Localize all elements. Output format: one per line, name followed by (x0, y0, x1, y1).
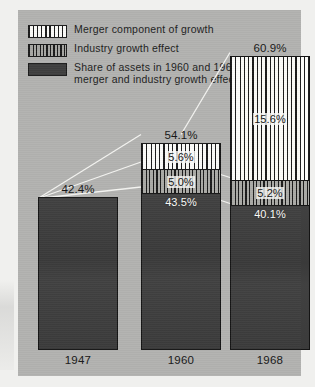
chart-panel: Merger component of growth Industry grow… (18, 10, 301, 376)
segment-industry-1968: 5.2% (231, 181, 309, 206)
segment-value-label: 5.0% (167, 176, 195, 188)
bar-total-label: 60.9% (253, 42, 286, 54)
segment-value-label: 5.6% (167, 151, 195, 163)
segment-value-label: 15.6% (253, 113, 287, 125)
figure-root: Merger component of growth Industry grow… (0, 0, 315, 387)
segment-merger-1968: 15.6% (231, 57, 309, 181)
segment-merger-1960: 5.6% (142, 144, 220, 170)
plot-area: 42.4% 1947 54.1% 5.6% 5.0% 43.5% (18, 10, 301, 376)
segment-value-label: 43.5% (164, 196, 198, 208)
axis-label-1947: 1947 (65, 354, 92, 366)
bar-total-label: 54.1% (164, 129, 197, 141)
bar-1960[interactable]: 54.1% 5.6% 5.0% 43.5% 1960 (141, 143, 221, 350)
axis-label-1968: 1968 (257, 354, 284, 366)
bar-group-1947: 42.4% 1947 (38, 197, 118, 350)
bar-group-1968: 60.9% 15.6% 5.2% 40.1% 1968 (230, 56, 310, 350)
bar-group-1960: 54.1% 5.6% 5.0% 43.5% 1960 (141, 143, 221, 350)
segment-value-label: 5.2% (256, 187, 284, 199)
segment-base-1947 (39, 198, 117, 349)
axis-label-1960: 1960 (168, 354, 195, 366)
connector-line (181, 53, 230, 135)
segment-base-1968: 40.1% (231, 206, 309, 349)
segment-industry-1960: 5.0% (142, 170, 220, 194)
scan-edge-smudge (0, 280, 14, 370)
bar-1947[interactable]: 42.4% 1947 (38, 197, 118, 350)
bar-1968[interactable]: 60.9% 15.6% 5.2% 40.1% 1968 (230, 56, 310, 350)
segment-base-1960: 43.5% (142, 194, 220, 349)
segment-value-label: 40.1% (253, 208, 287, 220)
bar-total-label: 42.4% (61, 183, 94, 195)
